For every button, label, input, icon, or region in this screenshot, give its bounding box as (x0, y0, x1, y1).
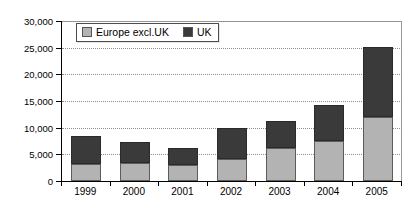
y-tick-label: 0 (0, 176, 53, 187)
bar-group[interactable] (363, 21, 393, 181)
bar-segment-uk[interactable] (266, 121, 296, 149)
y-tick-label: 30,000 (0, 16, 53, 27)
y-tick-mark (56, 101, 61, 102)
legend-item-label: Europe excl.UK (96, 26, 169, 38)
bar-segment-europe-excl-uk[interactable] (120, 163, 150, 181)
y-tick-mark (56, 74, 61, 75)
legend-item-label: UK (197, 26, 212, 38)
bar-group[interactable] (120, 21, 150, 181)
x-tick-mark (401, 182, 402, 186)
bar-group[interactable] (266, 21, 296, 181)
bar-group[interactable] (314, 21, 344, 181)
bar-group[interactable] (217, 21, 247, 181)
x-tick-mark (61, 182, 62, 186)
y-tick-label: 5,000 (0, 149, 53, 160)
y-tick-label: 25,000 (0, 42, 53, 53)
plot-area (61, 21, 402, 182)
y-tick-label: 15,000 (0, 96, 53, 107)
bar-segment-europe-excl-uk[interactable] (363, 117, 393, 181)
y-axis: 05,00010,00015,00020,00025,00030,000 (0, 0, 53, 221)
chart-legend: Europe excl.UKUK (76, 23, 219, 42)
bar-segment-europe-excl-uk[interactable] (217, 159, 247, 181)
y-tick-mark (56, 48, 61, 49)
legend-swatch-europe-excl-uk (82, 27, 92, 37)
bar-segment-uk[interactable] (120, 142, 150, 163)
legend-item[interactable]: Europe excl.UK (82, 26, 169, 38)
bar-group[interactable] (71, 21, 101, 181)
y-tick-label: 10,000 (0, 122, 53, 133)
bar-segment-europe-excl-uk[interactable] (314, 141, 344, 181)
stacked-bar-chart: 05,00010,00015,00020,00025,00030,000 Eur… (0, 0, 418, 221)
y-tick-label: 20,000 (0, 69, 53, 80)
bar-group[interactable] (168, 21, 198, 181)
bar-segment-uk[interactable] (71, 136, 101, 165)
y-tick-mark (56, 21, 61, 22)
x-tick-label: 2005 (349, 186, 405, 197)
bar-segment-uk[interactable] (217, 128, 247, 159)
legend-swatch-uk (183, 27, 193, 37)
bar-segment-uk[interactable] (168, 148, 198, 165)
y-tick-mark (56, 128, 61, 129)
bar-segment-europe-excl-uk[interactable] (266, 148, 296, 181)
y-tick-mark (56, 154, 61, 155)
bar-segment-europe-excl-uk[interactable] (168, 165, 198, 181)
legend-item[interactable]: UK (183, 26, 212, 38)
bar-segment-uk[interactable] (363, 47, 393, 117)
bar-segment-uk[interactable] (314, 105, 344, 141)
bar-segment-europe-excl-uk[interactable] (71, 164, 101, 181)
